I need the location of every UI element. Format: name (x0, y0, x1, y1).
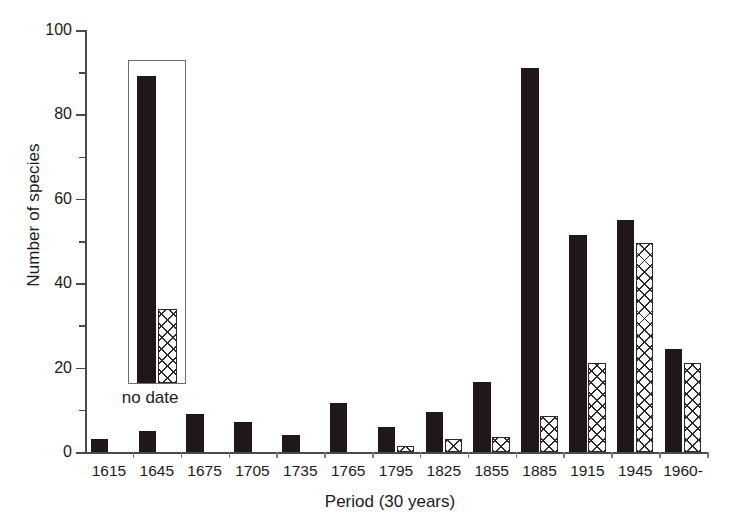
bar-solid (282, 435, 300, 452)
x-tick-mark (468, 452, 470, 458)
bar-solid (234, 422, 252, 452)
bar-hatched (445, 439, 463, 452)
x-tick-mark (181, 452, 183, 458)
x-tick-label: 1645 (140, 462, 174, 480)
bar-hatched (540, 416, 558, 452)
x-tick-mark (133, 452, 135, 458)
y-tick-mark (76, 199, 85, 201)
x-tick-mark (229, 452, 231, 458)
bar-solid (473, 382, 491, 452)
bar-solid (139, 431, 157, 452)
x-tick-mark (324, 452, 326, 458)
bar-solid (91, 439, 109, 452)
bar-solid (378, 427, 396, 452)
x-axis-title: Period (30 years) (80, 492, 700, 512)
x-tick-mark (516, 452, 518, 458)
bar-solid (569, 235, 587, 452)
y-tick-label: 20 (54, 359, 72, 377)
bar-solid (330, 403, 348, 452)
bar-hatched (636, 243, 654, 452)
x-tick-label: 1855 (474, 462, 508, 480)
no-date-label: no date (122, 388, 179, 408)
x-tick-mark (372, 452, 374, 458)
bar-solid (521, 68, 539, 452)
y-tick-label: 60 (54, 190, 72, 208)
x-tick-mark (420, 452, 422, 458)
y-tick-mark (76, 30, 85, 32)
y-axis-title: Number of species (24, 85, 44, 345)
y-tick-label: 40 (54, 274, 72, 292)
y-tick-mark (76, 368, 85, 370)
bar-solid (617, 220, 635, 452)
x-tick-label: 1825 (427, 462, 461, 480)
y-tick-label: 80 (54, 105, 72, 123)
y-tick-mark (76, 452, 85, 454)
y-tick-label: 100 (45, 21, 72, 39)
x-tick-mark (276, 452, 278, 458)
x-tick-mark (707, 452, 709, 458)
bar-solid (665, 349, 683, 452)
bar-hatched (492, 437, 510, 452)
x-tick-label: 1885 (522, 462, 556, 480)
x-axis-line (85, 452, 707, 454)
bar-solid (186, 414, 204, 452)
x-tick-label: 1705 (235, 462, 269, 480)
bar-hatched (684, 363, 702, 452)
x-tick-mark (659, 452, 661, 458)
bar-hatched (397, 446, 415, 452)
x-tick-label: 1765 (331, 462, 365, 480)
x-tick-label: 1795 (379, 462, 413, 480)
y-tick-label: 0 (63, 443, 72, 461)
x-tick-label: 1915 (570, 462, 604, 480)
bar-chart: Number of species Period (30 years) 0204… (0, 0, 750, 530)
y-tick-mark (76, 283, 85, 285)
y-tick-mark (76, 114, 85, 116)
plot-area: 020406080100 161516451675170517351765179… (85, 30, 707, 452)
x-tick-label: 1945 (618, 462, 652, 480)
no-date-bar-solid (137, 76, 156, 383)
x-tick-label: 1675 (187, 462, 221, 480)
x-tick-mark (563, 452, 565, 458)
x-tick-label: 1960- (663, 462, 703, 480)
no-date-bar-hatched (158, 309, 177, 384)
bar-hatched (588, 363, 606, 452)
bar-solid (426, 412, 444, 452)
x-tick-label: 1615 (92, 462, 126, 480)
x-tick-mark (611, 452, 613, 458)
x-tick-label: 1735 (283, 462, 317, 480)
